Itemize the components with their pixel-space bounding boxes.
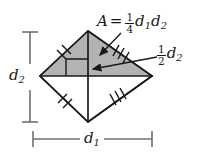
area-formula-operator: = — [108, 12, 125, 30]
area-formula-fraction: 14 — [125, 12, 134, 34]
area-formula-fraction-numerator: 1 — [125, 12, 134, 23]
half-diagonal-fraction: 12 — [157, 44, 166, 66]
area-formula-lhs: A — [97, 12, 108, 30]
half-diagonal-fraction-numerator: 1 — [157, 44, 166, 55]
half-diagonal-label: 12d2 — [156, 44, 183, 66]
horizontal-dimension-label: d1 — [84, 131, 100, 148]
area-formula-term2-subscript: 2 — [161, 20, 167, 31]
area-formula-label: A=14d1d2 — [97, 12, 167, 34]
rhombus-shaded-upper-half — [40, 31, 152, 76]
half-diagonal-term: d — [167, 44, 177, 62]
half-diagonal-subscript: 2 — [176, 52, 182, 63]
vertical-dimension-label: d2 — [9, 68, 25, 85]
rhombus-area-figure: A=14d1d2 12d2 d2 d1 — [0, 0, 199, 154]
area-formula-term2: d — [151, 12, 161, 30]
area-formula-term1: d — [135, 12, 145, 30]
vertical-dimension-term: d — [9, 66, 19, 84]
horizontal-dimension-subscript: 1 — [94, 137, 100, 148]
half-diagonal-fraction-denominator: 2 — [157, 55, 166, 67]
horizontal-dimension-term: d — [84, 129, 94, 147]
area-formula-fraction-denominator: 4 — [125, 23, 134, 35]
vertical-dimension-subscript: 2 — [19, 74, 25, 85]
